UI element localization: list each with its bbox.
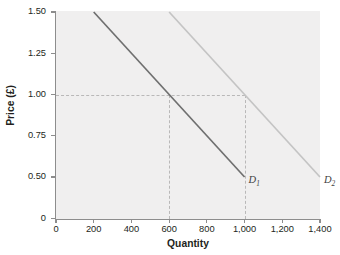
y-tick-mark — [51, 53, 55, 54]
curve-label-subscript: 2 — [332, 179, 336, 188]
curve-label-d1: D1 — [249, 175, 260, 190]
x-tick-label: 400 — [111, 225, 151, 234]
y-tick-label: 0 — [0, 214, 46, 223]
x-tick-mark — [55, 219, 56, 223]
x-tick-label: 0 — [36, 225, 76, 234]
curve-label-letter: D — [324, 174, 332, 185]
x-tick-label: 800 — [187, 225, 227, 234]
x-tick-label: 1,000 — [225, 225, 265, 234]
x-tick-mark — [169, 219, 170, 223]
y-tick-mark — [51, 11, 55, 12]
y-axis-line — [55, 11, 56, 220]
x-axis-line — [55, 219, 320, 220]
y-tick-mark — [51, 218, 55, 219]
x-tick-label: 600 — [149, 225, 189, 234]
x-tick-label: 200 — [74, 225, 114, 234]
x-tick-mark — [319, 219, 320, 223]
y-axis-title: Price (£) — [5, 69, 16, 143]
curve-label-subscript: 1 — [256, 179, 260, 188]
curve-label-d2: D2 — [324, 175, 335, 190]
x-tick-label: 1,200 — [262, 225, 302, 234]
x-tick-mark — [93, 219, 94, 223]
x-tick-mark — [244, 219, 245, 223]
y-tick-mark — [51, 176, 55, 177]
guide-line-vertical — [169, 95, 170, 219]
y-tick-mark — [51, 135, 55, 136]
y-tick-label: 1.50 — [0, 7, 46, 16]
y-tick-label: 1.25 — [0, 49, 46, 58]
x-tick-mark — [206, 219, 207, 223]
guide-line-horizontal — [56, 95, 245, 96]
y-tick-mark — [51, 94, 55, 95]
x-axis-title: Quantity — [56, 238, 320, 249]
x-tick-mark — [282, 219, 283, 223]
x-tick-label: 1,400 — [300, 225, 340, 234]
y-tick-label: 0.50 — [0, 172, 46, 181]
guide-line-vertical — [245, 95, 246, 219]
plot-area — [56, 11, 320, 219]
x-tick-mark — [131, 219, 132, 223]
